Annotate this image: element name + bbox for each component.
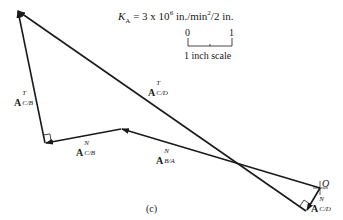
equation-subscript: A [125, 17, 130, 25]
vector-a-t-cb [18, 11, 45, 143]
figure-caption: (c) [146, 203, 157, 214]
equation-exponent: 6 [170, 9, 174, 17]
label-a-t-cd: ATC/D [148, 86, 171, 98]
right-angle-mark-right [300, 200, 310, 206]
scale-caption: 1 inch scale [184, 50, 231, 61]
label-a-n-cb: ANC/B [76, 146, 99, 158]
label-a-n-cd: ANC/D [311, 202, 334, 214]
vector-a-t-cd [18, 11, 306, 211]
scale-start-label: 0 [185, 27, 190, 38]
equation-units: in./min [176, 10, 207, 22]
origin-label: O [322, 179, 329, 189]
equation-units-tail: /2 in. [211, 10, 234, 22]
acceleration-polygon [0, 0, 343, 220]
label-a-n-ba: ANB/A [156, 154, 179, 166]
label-a-t-cb: ATC/B [14, 96, 37, 108]
scale-end-label: 1 [229, 27, 234, 38]
scale-factor-equation: KA = 3 x 106 in./min2/2 in. [118, 9, 233, 25]
vector-a-n-ba [122, 129, 320, 188]
equation-value: = 3 x 10 [133, 10, 169, 22]
